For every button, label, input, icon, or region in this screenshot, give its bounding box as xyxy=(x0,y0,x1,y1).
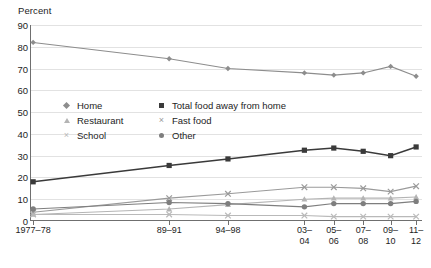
series-line xyxy=(33,186,416,212)
data-point-marker xyxy=(167,163,172,168)
x-light-marker-icon: × xyxy=(60,131,73,140)
x-tick-label-line: 89–91 xyxy=(157,225,182,236)
y-tick-label: 90 xyxy=(4,20,28,31)
data-point-marker xyxy=(413,199,418,204)
y-tick-label: 60 xyxy=(4,85,28,96)
data-point-marker xyxy=(388,201,393,206)
data-point-marker xyxy=(388,153,393,158)
y-tick-label: 20 xyxy=(4,172,28,183)
data-point-marker xyxy=(30,40,35,45)
data-point-marker xyxy=(30,206,35,211)
legend-item-school: ×School xyxy=(60,130,155,141)
x-tick-label: 1977–78 xyxy=(16,225,51,236)
y-tick-label: 40 xyxy=(4,128,28,139)
legend-label: Restaurant xyxy=(77,115,123,126)
data-point-marker xyxy=(331,201,336,206)
data-point-marker xyxy=(302,148,307,153)
series-fast-food xyxy=(30,183,419,215)
x-tick-label: 09–10 xyxy=(383,225,398,246)
series-home xyxy=(30,40,418,79)
x-tick-label-line: 04 xyxy=(297,236,312,247)
x-tick-label-line: 07– xyxy=(356,225,371,236)
legend-label: Fast food xyxy=(172,115,212,126)
data-point-marker xyxy=(413,73,418,78)
legend-item-restaurant: Restaurant xyxy=(60,115,155,126)
series-line xyxy=(33,42,416,76)
x-axis-tick-labels: 1977–7889–9194–9803–0405–0607–0809–1011–… xyxy=(30,225,422,265)
x-tick-label-line: 10 xyxy=(383,236,398,247)
x-tick-label-line: 94–98 xyxy=(215,225,240,236)
diamond-marker-icon xyxy=(60,103,73,108)
data-point-marker xyxy=(31,179,36,184)
data-point-marker xyxy=(361,70,366,75)
chart-legend: HomeTotal food away from homeRestaurant×… xyxy=(60,98,310,143)
data-point-marker xyxy=(361,201,366,206)
data-point-marker xyxy=(225,201,230,206)
x-tick-label: 89–91 xyxy=(157,225,182,236)
series-school xyxy=(30,212,419,220)
data-point-marker xyxy=(302,70,307,75)
x-tick-label-line: 1977–78 xyxy=(16,225,51,236)
x-tick-label: 05–06 xyxy=(326,225,341,246)
x-tick-label: 03–04 xyxy=(297,225,312,246)
legend-row: ×SchoolOther xyxy=(60,128,310,143)
y-tick-label: 70 xyxy=(4,63,28,74)
series-line xyxy=(33,147,416,182)
legend-row: HomeTotal food away from home xyxy=(60,98,310,113)
data-point-marker xyxy=(331,145,336,150)
data-point-marker xyxy=(331,72,336,77)
x-tick-label-line: 11– xyxy=(409,225,423,236)
legend-label: Home xyxy=(77,100,102,111)
square-marker-icon xyxy=(155,103,168,108)
y-tick-label: 50 xyxy=(4,107,28,118)
series-total-food-away-from-home xyxy=(31,144,419,184)
x-tick-label: 94–98 xyxy=(215,225,240,236)
legend-item-fast-food: ×Fast food xyxy=(155,115,305,126)
legend-label: Total food away from home xyxy=(172,100,286,111)
x-tick-label-line: 05– xyxy=(326,225,341,236)
chart-container: Percent 0102030405060708090 1977–7889–91… xyxy=(0,0,431,268)
legend-item-other: Other xyxy=(155,130,305,141)
data-point-marker xyxy=(166,56,171,61)
y-tick-label: 10 xyxy=(4,194,28,205)
legend-label: School xyxy=(77,130,106,141)
data-point-marker xyxy=(414,144,419,149)
x-tick-label-line: 03– xyxy=(297,225,312,236)
circle-marker-icon xyxy=(155,133,168,138)
legend-label: Other xyxy=(172,130,196,141)
legend-row: Restaurant×Fast food xyxy=(60,113,310,128)
legend-item-home: Home xyxy=(60,100,155,111)
x-marker-icon: × xyxy=(155,116,168,125)
series-line xyxy=(33,214,416,216)
series-restaurant xyxy=(30,194,419,217)
data-point-marker xyxy=(225,66,230,71)
data-point-marker xyxy=(302,204,307,209)
data-point-marker xyxy=(166,200,171,205)
y-tick-label: 80 xyxy=(4,41,28,52)
legend-item-total-food-away-from-home: Total food away from home xyxy=(155,100,305,111)
x-tick-label: 07–08 xyxy=(356,225,371,246)
data-point-marker xyxy=(388,64,393,69)
data-point-marker xyxy=(361,149,366,154)
x-tick-label-line: 12 xyxy=(409,236,423,247)
x-tick-label: 11–12 xyxy=(409,225,423,246)
x-tick-label-line: 06 xyxy=(326,236,341,247)
y-tick-label: 30 xyxy=(4,150,28,161)
x-tick-label-line: 09– xyxy=(383,225,398,236)
data-point-marker xyxy=(225,156,230,161)
x-tick-label-line: 08 xyxy=(356,236,371,247)
triangle-marker-icon xyxy=(60,118,73,123)
